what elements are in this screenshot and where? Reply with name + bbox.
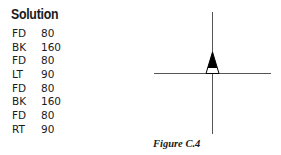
turtle-figure — [0, 0, 281, 155]
figure-caption: Figure C.4 — [153, 138, 200, 149]
turtle-icon — [206, 52, 219, 74]
